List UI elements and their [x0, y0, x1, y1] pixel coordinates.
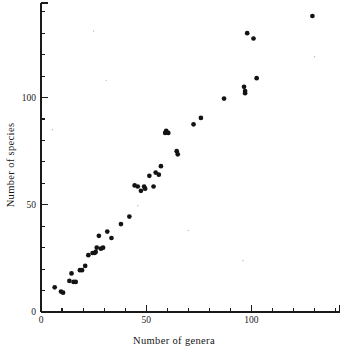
y-tick-label: 0: [31, 307, 36, 317]
data-point: [139, 188, 144, 193]
x-tick-label: 50: [141, 315, 151, 325]
data-point: [245, 31, 250, 36]
data-point: [191, 122, 196, 127]
x-tick-label: 100: [244, 315, 259, 325]
data-point: [80, 268, 85, 273]
plot-background: [0, 0, 348, 351]
data-point: [67, 279, 72, 284]
data-point: [61, 290, 66, 295]
data-point: [222, 96, 227, 101]
data-point: [101, 245, 106, 250]
data-point: [86, 253, 91, 258]
paper-speck: [52, 129, 53, 130]
data-point: [159, 164, 164, 169]
data-point: [69, 271, 74, 276]
data-point: [310, 14, 315, 19]
data-point: [199, 116, 204, 121]
y-axis-title: Number of species: [5, 123, 16, 208]
data-point: [94, 245, 99, 250]
y-tick-label: 100: [22, 93, 37, 103]
data-point: [119, 222, 124, 227]
data-point: [109, 236, 114, 241]
data-point: [251, 36, 256, 41]
data-point: [242, 84, 247, 89]
data-point: [254, 76, 259, 81]
data-point: [127, 214, 132, 219]
data-point: [97, 234, 102, 239]
paper-speck: [137, 205, 138, 206]
scatter-plot-figure: 050100050100 Number of genera Number of …: [0, 0, 348, 351]
data-point: [156, 172, 161, 177]
paper-speck: [93, 30, 94, 31]
data-point: [151, 184, 156, 189]
x-tick-label: 0: [39, 315, 44, 325]
data-point: [166, 131, 171, 136]
data-point: [73, 280, 78, 285]
data-point: [175, 152, 180, 157]
data-point: [147, 173, 152, 178]
x-axis-title: Number of genera: [133, 335, 215, 346]
y-tick-label: 50: [27, 200, 37, 210]
paper-speck: [188, 230, 189, 231]
data-point: [52, 285, 57, 290]
data-point: [135, 184, 140, 189]
paper-speck: [106, 80, 107, 81]
data-point: [105, 229, 110, 234]
data-point: [93, 250, 98, 255]
paper-speck: [242, 260, 243, 261]
paper-speck: [314, 56, 315, 57]
data-point: [243, 89, 248, 94]
data-point: [83, 264, 88, 269]
data-point: [143, 186, 148, 191]
